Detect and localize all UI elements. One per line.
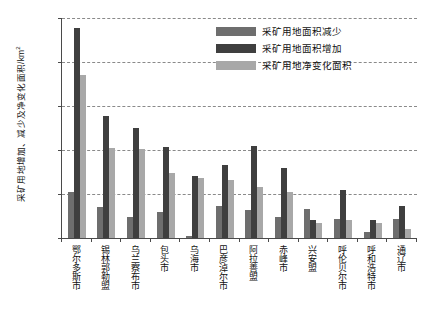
x-axis-category-label: 呼伦贝尔市 [337,245,348,323]
x-label-cell: 巴彦淖尔市 [209,245,239,323]
legend-swatch-net-icon [216,61,256,70]
x-tick-mark [209,238,210,242]
x-axis-category-label: 乌海市 [189,245,200,323]
x-label-cell: 兴安盟 [298,245,328,323]
x-label-cell: 通辽市 [386,245,416,323]
chart-legend: 采矿用地面积减少 采矿用地面积增加 采矿用地净变化面积 [216,24,352,72]
bar-net [198,178,204,238]
bar-net [228,180,234,238]
x-tick-mark [91,238,92,242]
x-label-cell: 呼和浩特市 [357,245,387,323]
bar-net [109,148,115,238]
bar-net [257,187,263,238]
bar-group [62,18,92,238]
legend-item-net: 采矿用地净变化面积 [216,58,352,72]
x-tick-mark [120,238,121,242]
x-tick-mark [150,238,151,242]
x-axis-category-label: 锡林郭勒盟 [100,245,111,323]
bar-group [92,18,122,238]
bar-group [180,18,210,238]
x-axis-labels: 鄂尔多斯市锡林郭勒盟乌兰察布市包头市乌海市巴彦淖尔市阿拉善盟赤峰市兴安盟呼伦贝尔… [61,245,416,323]
bar-group [121,18,151,238]
x-label-cell: 锡林郭勒盟 [91,245,121,323]
legend-item-increase: 采矿用地面积增加 [216,41,352,55]
legend-label-decrease: 采矿用地面积减少 [262,24,342,38]
x-axis-category-label: 通辽市 [396,245,407,323]
bar-net [346,220,352,238]
x-axis-category-label: 赤峰市 [278,245,289,323]
legend-item-decrease: 采矿用地面积减少 [216,24,352,38]
x-axis-category-label: 巴彦淖尔市 [218,245,229,323]
x-axis-ticks [61,238,416,243]
x-label-cell: 包头市 [150,245,180,323]
x-tick-mark [416,238,417,242]
bar-group [358,18,388,238]
x-tick-mark [179,238,180,242]
bar-net [287,192,293,238]
bar-net [169,173,175,238]
x-tick-mark [357,238,358,242]
x-label-cell: 乌海市 [179,245,209,323]
x-axis-category-label: 鄂尔多斯市 [71,245,82,323]
x-label-cell: 鄂尔多斯市 [61,245,91,323]
x-label-cell: 赤峰市 [268,245,298,323]
x-label-cell: 阿拉善盟 [238,245,268,323]
legend-swatch-decrease-icon [216,27,256,36]
x-axis-category-label: 兴安盟 [307,245,318,323]
bar-group [387,18,417,238]
bar-net [80,75,86,238]
x-tick-mark [268,238,269,242]
x-axis-category-label: 乌兰察布市 [130,245,141,323]
x-tick-mark [298,238,299,242]
x-axis-category-label: 呼和浩特市 [366,245,377,323]
legend-swatch-increase-icon [216,44,256,53]
x-tick-mark [327,238,328,242]
legend-label-net: 采矿用地净变化面积 [262,58,352,72]
bar-net [139,149,145,238]
x-label-cell: 呼伦贝尔市 [327,245,357,323]
x-tick-mark [61,238,62,242]
x-tick-mark [386,238,387,242]
bar-net [316,223,322,238]
x-axis-category-label: 阿拉善盟 [248,245,259,323]
y-axis-title: 采矿用地增加、减少及净变化面积/km2 [14,8,26,240]
x-axis-category-label: 包头市 [159,245,170,323]
mining-land-change-bar-chart: 采矿用地增加、减少及净变化面积/km2 0100200300400500 鄂尔多… [0,0,429,325]
bar-net [405,229,411,238]
legend-label-increase: 采矿用地面积增加 [262,41,342,55]
x-label-cell: 乌兰察布市 [120,245,150,323]
x-tick-mark [239,238,240,242]
bar-group [151,18,181,238]
bar-net [376,223,382,238]
